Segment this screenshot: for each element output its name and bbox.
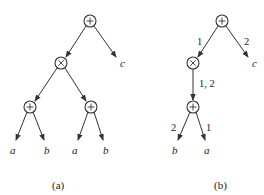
edge-root-times	[66, 26, 86, 57]
caption-b: (b)	[214, 179, 227, 192]
edge-plus-right-a	[78, 112, 88, 140]
panel-b-dag: 1 2 1, 2 2 1 c b a (b)	[171, 15, 257, 192]
edge-plus-a	[196, 112, 205, 140]
edge-label: 2	[244, 36, 249, 47]
edge-plus-right-b	[94, 112, 103, 140]
node-plus-right	[85, 101, 97, 113]
caption-a: (a)	[52, 179, 65, 192]
edge-plus-b	[178, 112, 190, 140]
leaf-b: b	[44, 144, 50, 156]
leaf-a: a	[10, 144, 16, 156]
node-plus-left	[24, 101, 36, 113]
edge-label: 1	[206, 122, 211, 133]
leaf-c: c	[120, 57, 125, 69]
expression-tree-diagram: c a b a b (a) 1 2 1, 2 2 1 c b a	[0, 0, 264, 195]
panel-a-tree: c a b a b (a)	[10, 15, 125, 192]
edge-times-plus-left	[35, 68, 57, 101]
node-plus-root	[216, 15, 228, 27]
node-plus	[187, 101, 199, 113]
edge-label: 2	[171, 122, 176, 133]
edge-plus-left-b	[33, 112, 44, 140]
leaf-b: b	[172, 144, 178, 156]
leaf-c: c	[252, 57, 257, 69]
leaf-b: b	[103, 144, 109, 156]
node-times	[55, 57, 67, 69]
edge-root-c	[94, 26, 116, 57]
leaf-a: a	[72, 144, 78, 156]
edge-label: 1, 2	[199, 78, 215, 89]
node-plus-root	[84, 15, 96, 27]
node-times	[187, 57, 199, 69]
leaf-a: a	[204, 144, 210, 156]
edge-plus-left-a	[16, 112, 27, 140]
edge-label: 1	[197, 36, 202, 47]
edge-times-plus-right	[65, 68, 86, 101]
